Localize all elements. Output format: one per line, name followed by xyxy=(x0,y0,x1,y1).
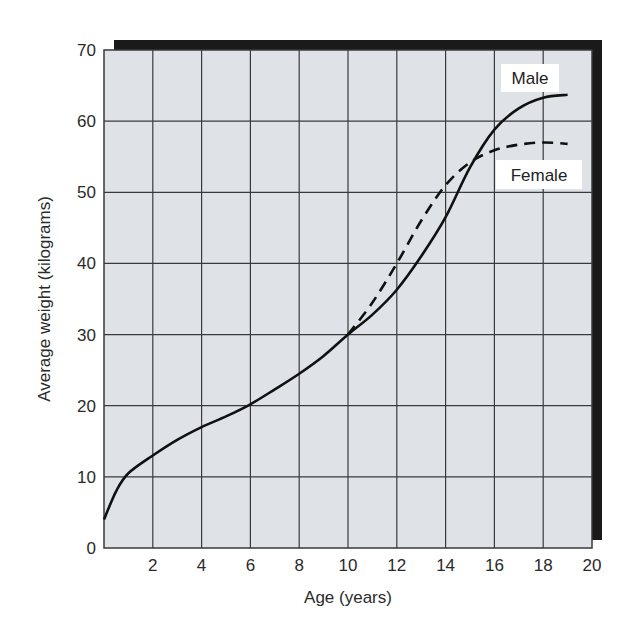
weight-by-age-chart: 010203040506070 2468101214161820 Male Fe… xyxy=(0,0,636,639)
y-tick-label: 0 xyxy=(87,539,96,558)
x-axis-label: Age (years) xyxy=(304,588,392,607)
y-tick-label: 50 xyxy=(77,183,96,202)
x-tick-label: 14 xyxy=(436,556,455,575)
x-tick-label: 6 xyxy=(246,556,255,575)
x-tick-label: 4 xyxy=(197,556,206,575)
x-tick-label: 2 xyxy=(148,556,157,575)
x-tick-label: 10 xyxy=(339,556,358,575)
y-tick-label: 30 xyxy=(77,326,96,345)
x-tick-label: 16 xyxy=(485,556,504,575)
x-tick-label: 18 xyxy=(534,556,553,575)
x-tick-label: 20 xyxy=(583,556,602,575)
x-tick-label: 12 xyxy=(387,556,406,575)
y-tick-label: 40 xyxy=(77,254,96,273)
male-label: Male xyxy=(512,69,549,88)
x-tick-label: 8 xyxy=(294,556,303,575)
y-tick-label: 70 xyxy=(77,41,96,60)
x-axis-ticks: 2468101214161820 xyxy=(148,556,601,575)
y-tick-label: 60 xyxy=(77,112,96,131)
y-tick-label: 10 xyxy=(77,468,96,487)
y-axis-label: Average weight (kilograms) xyxy=(35,196,54,402)
y-axis-ticks: 010203040506070 xyxy=(77,41,96,558)
female-label: Female xyxy=(511,166,568,185)
y-tick-label: 20 xyxy=(77,397,96,416)
